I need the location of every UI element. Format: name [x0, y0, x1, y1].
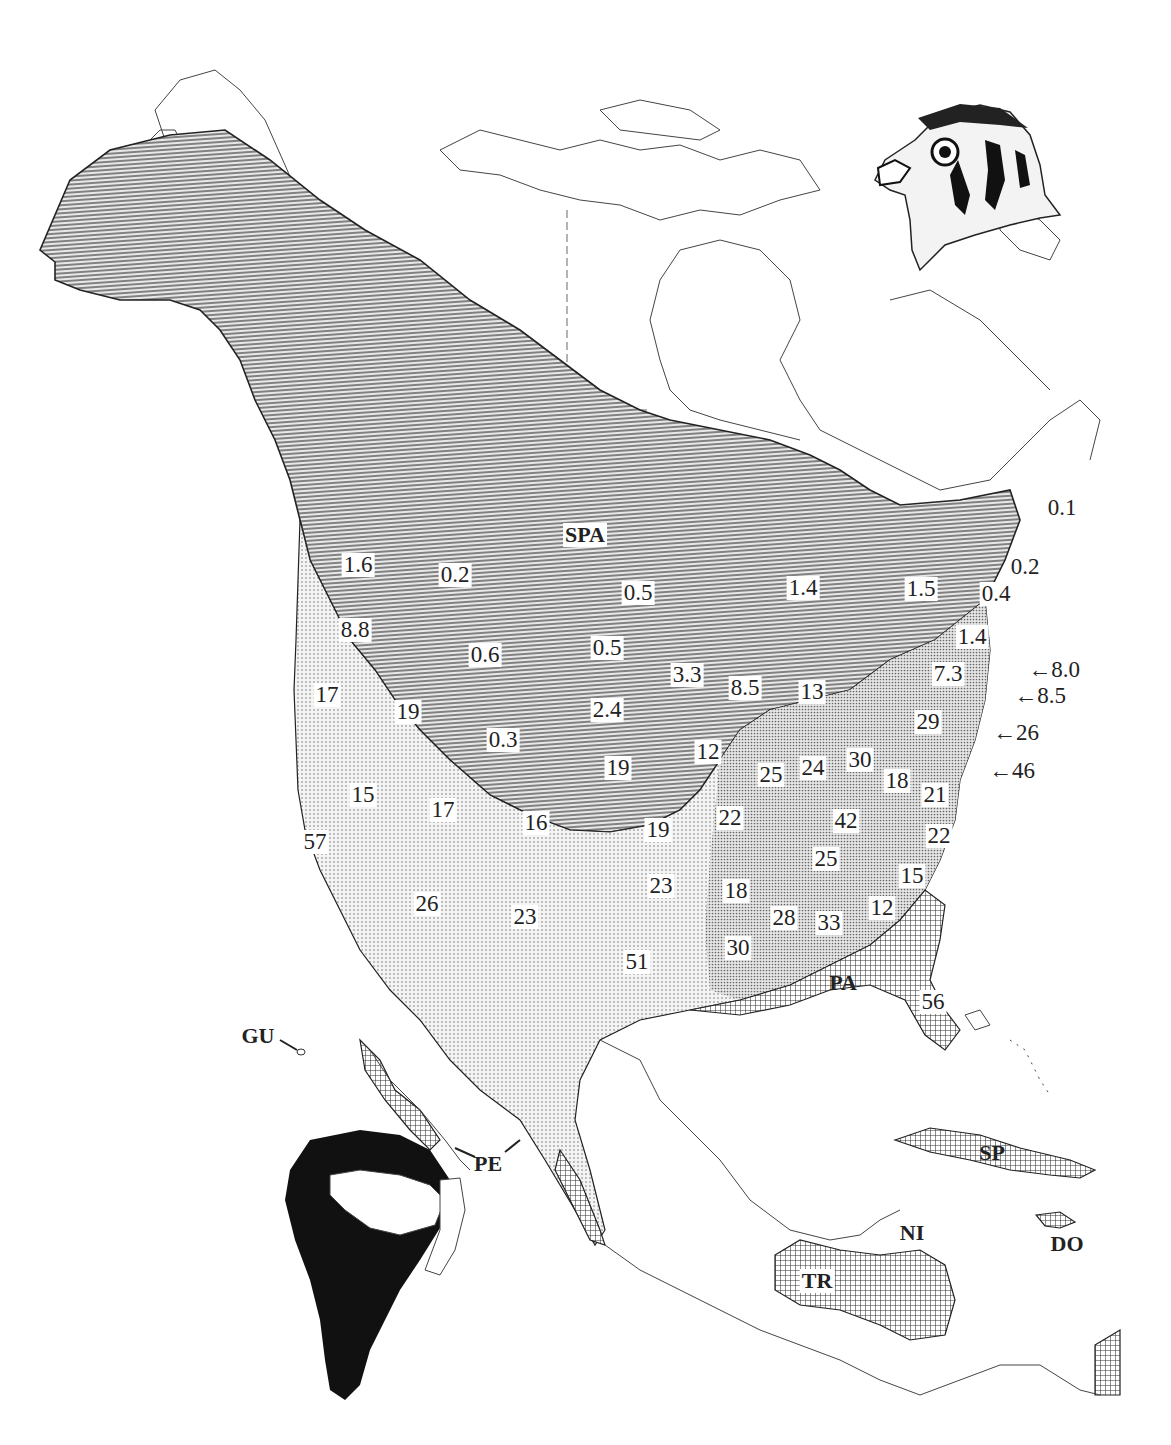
region-value-label: 0.6 — [469, 643, 502, 667]
region-value-label: 17 — [314, 683, 341, 707]
region-value-label: 25 — [813, 847, 840, 871]
subspecies-label-pe: PE — [472, 1152, 504, 1176]
region-value-label: 0.1 — [1046, 496, 1079, 520]
region-value-label: 12 — [869, 896, 896, 920]
region-value-label: 51 — [624, 950, 651, 974]
coastal-callout-label: ←46 — [987, 759, 1037, 783]
region-value-label: 17 — [430, 798, 457, 822]
region-value-label: 29 — [915, 710, 942, 734]
region-value-label: 28 — [771, 906, 798, 930]
guadalupe-islet — [297, 1049, 305, 1055]
region-value-label: 0.4 — [980, 582, 1013, 606]
region-value-label: 21 — [922, 783, 949, 807]
region-value-label: 25 — [758, 763, 785, 787]
region-value-label: 8.8 — [339, 618, 372, 642]
coastal-callout-label: ←26 — [991, 721, 1041, 745]
region-value-label: 1.5 — [905, 577, 938, 601]
region-value-label: 26 — [414, 892, 441, 916]
subspecies-label-tr: TR — [800, 1269, 835, 1293]
region-value-label: 22 — [717, 806, 744, 830]
region-value-label: 42 — [833, 809, 860, 833]
southern-coastlines — [600, 1010, 1100, 1395]
subspecies-label-sp: SP — [977, 1141, 1007, 1165]
region-value-label: 30 — [725, 936, 752, 960]
subspecies-label-ni: NI — [898, 1221, 926, 1245]
region-value-label: 23 — [648, 874, 675, 898]
region-value-label: 57 — [302, 830, 329, 854]
kestrel-head-illustration — [875, 104, 1060, 270]
region-value-label: 33 — [816, 911, 843, 935]
region-value-label: 15 — [350, 783, 377, 807]
region-value-label: 15 — [899, 864, 926, 888]
region-value-label: 19 — [605, 756, 632, 780]
region-value-label: 0.3 — [487, 728, 520, 752]
region-value-label: 18 — [723, 879, 750, 903]
region-value-label: 30 — [847, 748, 874, 772]
region-value-label: 1.4 — [956, 625, 989, 649]
region-value-label: 19 — [395, 700, 422, 724]
gu-arrow — [280, 1040, 297, 1050]
region-value-label: 1.6 — [342, 553, 375, 577]
region-value-label: 23 — [512, 905, 539, 929]
hispaniola-island — [1036, 1212, 1075, 1228]
region-value-label: 13 — [799, 680, 826, 704]
subspecies-label-gu: GU — [240, 1024, 277, 1048]
region-value-label: 2.4 — [591, 698, 624, 722]
coastal-callout-label: ←8.0 — [1026, 658, 1082, 682]
region-value-label: 3.3 — [671, 663, 704, 687]
south-america-inset — [285, 1130, 465, 1400]
region-value-label: 1.4 — [787, 576, 820, 600]
subspecies-label-spa: SPA — [563, 523, 607, 547]
coastal-callout-label: ←8.5 — [1012, 684, 1068, 708]
region-value-label: 18 — [884, 769, 911, 793]
region-value-label: 19 — [645, 818, 672, 842]
region-value-label: 0.5 — [591, 636, 624, 660]
region-value-label: 16 — [523, 811, 550, 835]
region-value-label: 24 — [800, 756, 827, 780]
region-value-label: 7.3 — [932, 662, 965, 686]
subspecies-label-do: DO — [1049, 1232, 1086, 1256]
region-value-label: 56 — [920, 990, 947, 1014]
region-value-label: 0.5 — [622, 581, 655, 605]
region-value-label: 12 — [695, 740, 722, 764]
region-value-label: 0.2 — [439, 563, 472, 587]
region-value-label: 0.2 — [1009, 555, 1042, 579]
region-value-label: 8.5 — [729, 676, 762, 700]
region-value-label: 22 — [926, 824, 953, 848]
subspecies-label-pa: PA — [827, 971, 859, 995]
